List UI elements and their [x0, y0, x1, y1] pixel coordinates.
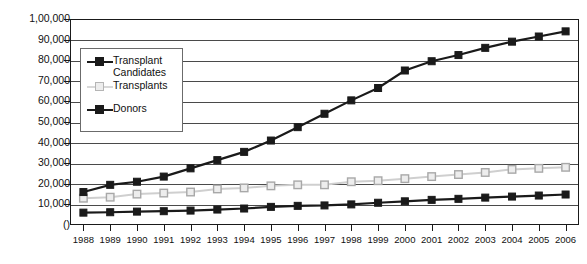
y-axis-tick-label: 1,00,000 — [6, 13, 70, 23]
x-axis-tick-mark — [378, 225, 379, 231]
data-point-marker — [455, 171, 463, 179]
x-axis-tick-mark — [191, 225, 192, 231]
legend-label-transplants: Transplants — [113, 79, 167, 91]
data-point-marker — [509, 193, 516, 200]
data-point-marker — [482, 44, 489, 51]
x-axis-tick-mark — [512, 225, 513, 231]
x-axis-tick-mark — [458, 225, 459, 231]
data-point-marker — [187, 188, 195, 196]
data-point-marker — [241, 205, 248, 212]
y-axis-tick-label: () — [6, 219, 70, 229]
x-axis-tick-mark — [539, 225, 540, 231]
data-point-marker — [80, 209, 87, 216]
legend-item-transplant-candidates: Transplant Candidates — [87, 54, 176, 78]
y-axis-tick-label: 40,000 — [6, 137, 70, 147]
data-point-marker — [294, 124, 301, 131]
y-axis-tick-label: 50,000 — [6, 116, 70, 126]
data-point-marker — [241, 148, 248, 155]
data-point-marker — [187, 165, 194, 172]
data-point-marker — [428, 173, 436, 181]
data-point-marker — [428, 58, 435, 65]
data-point-marker — [160, 173, 167, 180]
data-point-marker — [375, 199, 382, 206]
data-point-marker — [401, 67, 408, 74]
data-point-marker — [508, 166, 516, 174]
data-point-marker — [240, 184, 248, 192]
y-axis-tick-label: 90,000 — [6, 34, 70, 44]
data-point-marker — [294, 202, 301, 209]
data-point-marker — [214, 185, 222, 193]
x-axis-tick-mark — [271, 225, 272, 231]
x-axis: 1988198919901991199219931994199519961997… — [70, 225, 579, 264]
data-point-marker — [160, 208, 167, 215]
data-point-marker — [133, 178, 140, 185]
data-point-marker — [321, 181, 329, 189]
legend-marker-filled-square-icon — [87, 55, 113, 68]
data-point-marker — [348, 97, 355, 104]
x-axis-tick-mark — [244, 225, 245, 231]
chart-legend: Transplant Candidates Transplants Donors — [80, 48, 183, 132]
data-point-marker — [267, 182, 275, 190]
legend-marker-open-square-icon — [87, 80, 113, 93]
y-axis: ()10,00020,00030,00040,00050,00060,00070… — [0, 0, 70, 264]
data-point-marker — [267, 137, 274, 144]
data-point-marker — [133, 190, 141, 198]
x-axis-tick-mark — [83, 225, 84, 231]
chart-container: ()10,00020,00030,00040,00050,00060,00070… — [0, 0, 587, 264]
data-point-marker — [321, 202, 328, 209]
data-point-marker — [374, 177, 382, 185]
data-point-marker — [509, 38, 516, 45]
data-point-marker — [294, 181, 302, 189]
x-axis-tick-mark — [405, 225, 406, 231]
legend-item-donors: Donors — [87, 102, 176, 116]
y-axis-tick-label: 60,000 — [6, 95, 70, 105]
y-axis-tick-label: 30,000 — [6, 157, 70, 167]
x-axis-tick-mark — [164, 225, 165, 231]
x-axis-tick-mark — [485, 225, 486, 231]
data-point-marker — [562, 28, 569, 35]
data-point-marker — [535, 165, 543, 173]
data-point-marker — [214, 157, 221, 164]
data-point-marker — [482, 194, 489, 201]
legend-label-transplant-candidates: Transplant Candidates — [113, 54, 166, 78]
data-point-marker — [160, 189, 168, 197]
legend-marker-filled-square-icon — [87, 103, 113, 116]
data-point-marker — [375, 85, 382, 92]
data-point-marker — [562, 164, 570, 172]
data-point-marker — [214, 206, 221, 213]
data-point-marker — [535, 192, 542, 199]
data-point-marker — [535, 33, 542, 40]
data-point-marker — [401, 175, 409, 183]
data-point-marker — [348, 178, 356, 186]
legend-label-line1: Transplant — [113, 54, 162, 66]
x-axis-tick-mark — [432, 225, 433, 231]
x-axis-tick-label: 2006 — [549, 234, 583, 245]
y-axis-tick-label: 80,000 — [6, 54, 70, 64]
data-point-marker — [455, 52, 462, 59]
data-point-marker — [107, 209, 114, 216]
x-axis-tick-mark — [137, 225, 138, 231]
data-point-marker — [133, 208, 140, 215]
x-axis-tick-mark — [325, 225, 326, 231]
y-axis-tick-label: 20,000 — [6, 178, 70, 188]
data-point-marker — [187, 207, 194, 214]
data-point-marker — [455, 195, 462, 202]
legend-label-donors: Donors — [113, 102, 147, 114]
x-axis-tick-mark — [566, 225, 567, 231]
data-point-marker — [401, 198, 408, 205]
data-point-marker — [428, 196, 435, 203]
y-axis-tick-label: 70,000 — [6, 75, 70, 85]
legend-label-line2: Candidates — [113, 66, 166, 78]
legend-item-transplants: Transplants — [87, 79, 176, 93]
data-point-marker — [348, 201, 355, 208]
x-axis-tick-mark — [110, 225, 111, 231]
data-point-marker — [80, 189, 87, 196]
data-point-marker — [321, 110, 328, 117]
x-axis-tick-mark — [217, 225, 218, 231]
data-point-marker — [106, 193, 114, 201]
x-axis-tick-mark — [351, 225, 352, 231]
y-axis-tick-label: 10,000 — [6, 198, 70, 208]
x-axis-tick-mark — [298, 225, 299, 231]
data-point-marker — [562, 191, 569, 198]
data-point-marker — [481, 169, 489, 177]
